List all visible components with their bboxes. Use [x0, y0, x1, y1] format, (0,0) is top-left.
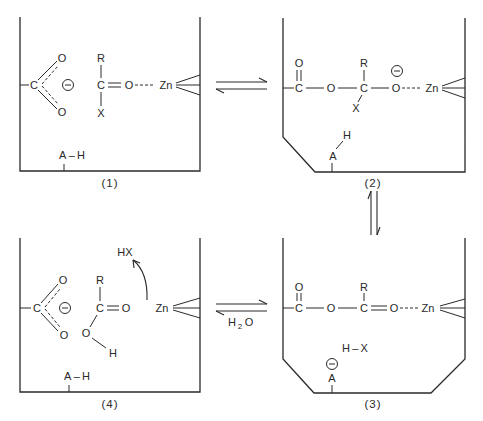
atom-carboxylate-o-bottom: O — [58, 106, 67, 118]
atom-substrate-c: C — [97, 79, 105, 91]
atom-acid-o-double: O — [122, 302, 131, 314]
atom-base-a: A — [328, 372, 336, 384]
reagent-water-o: O — [245, 316, 254, 328]
atom-substrate-x: X — [97, 107, 105, 119]
equilibrium-arrow-3-4: H 2 O — [216, 300, 267, 331]
equilibrium-arrow-2-3 — [368, 191, 380, 235]
equilibrium-arrow-1-2 — [216, 78, 267, 93]
active-site-pocket — [283, 18, 465, 172]
acid-group-a-h: A – H — [64, 370, 90, 382]
panel-3: O C O R C O Zn H – X A (3) — [283, 238, 465, 410]
active-site-pocket — [20, 238, 200, 392]
atom-tetrahedral-x: X — [352, 102, 360, 114]
bond-c-o-bottom — [38, 90, 57, 109]
atom-carboxylate-o-bottom: O — [60, 329, 69, 341]
diagram-canvas: C O O R C X O Zn A – H (1) — [0, 0, 483, 421]
zinc-ligand-wedges — [173, 298, 200, 318]
atom-substrate-o: O — [125, 79, 134, 91]
atom-acid-h: H — [109, 347, 117, 359]
resonance-bond-bottom — [45, 309, 60, 327]
panel-1: C O O R C X O Zn A – H (1) — [20, 17, 200, 189]
atom-acid-h: H — [343, 129, 351, 141]
negative-charge-icon — [327, 359, 338, 370]
atom-tetrahedral-c: C — [360, 82, 368, 94]
atom-carboxylate-o-top: O — [58, 52, 67, 64]
atom-acid-r: R — [96, 274, 104, 286]
curved-release-arrow-icon — [133, 260, 147, 300]
panel-4: C O O R C O O H HX Zn A – H — [20, 238, 200, 410]
zinc-ligand-wedges — [440, 299, 465, 318]
atom-ester-o: O — [327, 82, 336, 94]
atom-acid-o-h: O — [82, 327, 91, 339]
atom-substrate-r: R — [97, 52, 105, 64]
zinc-ligand-wedges — [442, 78, 465, 98]
bond-c-o-top — [41, 284, 58, 303]
bond-c-oh — [90, 315, 97, 327]
panel-2: O C O R C X O Zn A H (2) — [283, 18, 465, 189]
atom-acid-c: C — [96, 302, 104, 314]
negative-charge-icon — [63, 80, 74, 91]
active-site-pocket — [20, 17, 200, 171]
atom-acyl-c: C — [360, 302, 368, 314]
atom-carboxylate-c: C — [30, 79, 38, 91]
atom-ester-c: C — [295, 82, 303, 94]
panel-label-1: (1) — [101, 177, 118, 189]
bond-o-h — [92, 338, 106, 348]
atom-ester-o: O — [327, 302, 336, 314]
atom-zinc: Zn — [422, 302, 435, 314]
negative-charge-icon — [392, 66, 403, 77]
released-hx: HX — [117, 246, 133, 258]
atom-acyl-o: O — [390, 302, 399, 314]
atom-tetrahedral-r: R — [360, 57, 368, 69]
reagent-water-subscript: 2 — [238, 322, 243, 331]
leaving-group-h-x: H – X — [342, 342, 368, 354]
zinc-ligand-wedges — [176, 75, 200, 95]
atom-zinc: Zn — [426, 82, 439, 94]
atom-carboxylate-c: C — [33, 302, 41, 314]
atom-acid-a: A — [329, 150, 337, 162]
atom-alkoxide-o: O — [392, 82, 401, 94]
atom-zinc: Zn — [156, 302, 169, 314]
panel-label-3: (3) — [364, 398, 381, 410]
panel-label-4: (4) — [101, 398, 118, 410]
bond-c-o-top — [38, 61, 57, 80]
atom-zinc: Zn — [160, 79, 173, 91]
active-site-pocket — [283, 238, 465, 393]
atom-ester-o-top: O — [295, 57, 304, 69]
atom-acyl-r: R — [360, 281, 368, 293]
resonance-bond-top — [45, 289, 60, 307]
enzyme-mechanism-diagram: C O O R C X O Zn A – H (1) — [0, 0, 483, 421]
bond-c-x — [358, 95, 362, 102]
acid-group-a-h: A – H — [59, 149, 85, 161]
atom-ester-c: C — [295, 302, 303, 314]
negative-charge-icon — [60, 303, 71, 314]
bond-a-h — [336, 141, 343, 149]
atom-ester-o-top: O — [295, 281, 304, 293]
atom-carboxylate-o-top: O — [59, 274, 68, 286]
reagent-water-h: H — [228, 316, 236, 328]
panel-label-2: (2) — [364, 177, 381, 189]
